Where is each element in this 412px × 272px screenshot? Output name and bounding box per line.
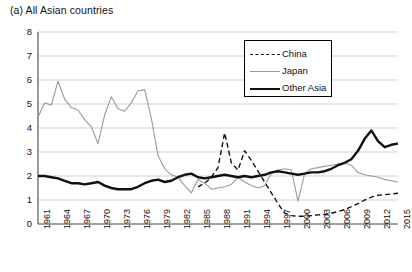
x-axis-tick-label: 1997 — [282, 209, 292, 229]
x-axis-tick-label: 2009 — [362, 209, 372, 229]
legend-label-other-asia: Other Asia — [282, 82, 326, 93]
legend-label-japan: Japan — [282, 65, 308, 76]
series-line-other-asia — [38, 130, 398, 189]
legend-item-japan: Japan — [250, 62, 326, 79]
chart-figure: (a) All Asian countries 012345678 196119… — [0, 0, 412, 272]
x-axis-tick-label: 1985 — [202, 209, 212, 229]
chart-plot-area — [0, 0, 412, 272]
legend-label-china: China — [282, 48, 307, 59]
x-axis-tick-label: 1994 — [262, 209, 272, 229]
legend-item-other-asia: Other Asia — [250, 79, 326, 96]
x-axis-tick-label: 1964 — [62, 209, 72, 229]
y-axis-tick-label: 2 — [16, 170, 32, 181]
x-axis-tick-label: 1988 — [222, 209, 232, 229]
legend-item-china: China — [250, 45, 326, 62]
x-axis-tick-label: 2003 — [322, 209, 332, 229]
x-axis-tick-label: 2006 — [342, 209, 352, 229]
x-axis-tick-label: 1967 — [82, 209, 92, 229]
y-axis-tick-label: 1 — [16, 194, 32, 205]
y-axis-tick-label: 5 — [16, 98, 32, 109]
japan-line-icon — [250, 66, 280, 76]
x-axis-tick-label: 2012 — [382, 209, 392, 229]
x-axis-tick-label: 1976 — [142, 209, 152, 229]
x-axis-tick-label: 1970 — [102, 209, 112, 229]
other-asia-line-icon — [250, 83, 280, 93]
chart-legend: China Japan Other Asia — [244, 40, 332, 97]
x-axis-tick-label: 1961 — [42, 209, 52, 229]
x-axis-tick-label: 1979 — [162, 209, 172, 229]
y-axis-tick-label: 3 — [16, 146, 32, 157]
x-axis-tick-label: 2000 — [302, 209, 312, 229]
x-axis-tick-label: 1973 — [122, 209, 132, 229]
y-axis-tick-label: 6 — [16, 74, 32, 85]
china-line-icon — [250, 49, 280, 59]
x-axis-tick-label: 1982 — [182, 209, 192, 229]
y-axis-tick-label: 0 — [16, 218, 32, 229]
x-axis-tick-label: 1991 — [242, 209, 252, 229]
x-axis-tick-label: 2015 — [402, 209, 412, 229]
y-axis-tick-label: 7 — [16, 50, 32, 61]
y-axis-tick-label: 8 — [16, 26, 32, 37]
y-axis-tick-label: 4 — [16, 122, 32, 133]
